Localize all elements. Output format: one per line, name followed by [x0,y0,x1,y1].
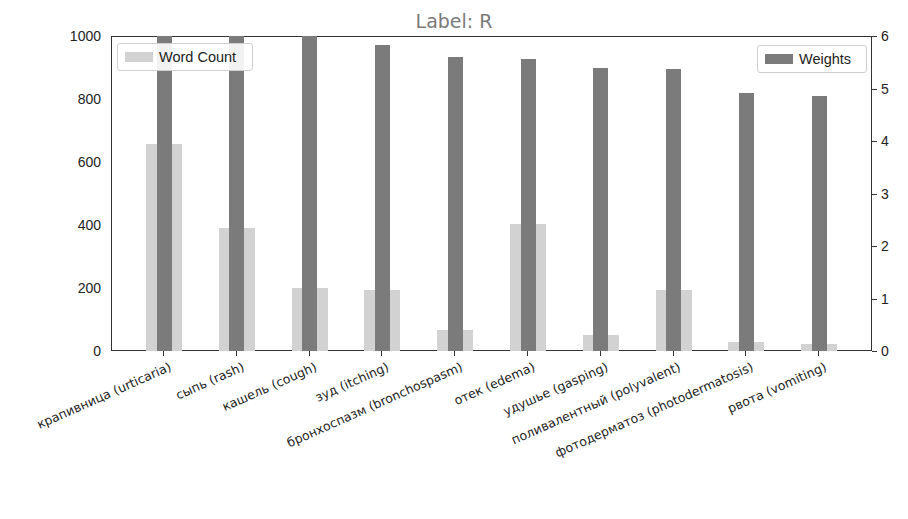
legend-label-word-count: Word Count [159,49,236,65]
x-tick-label: крапивница (urticaria) [34,359,173,432]
x-tick-mark [381,351,382,356]
y-tick-label-right: 2 [881,238,889,254]
y-tick-label-left: 400 [41,217,101,233]
legend-word-count: Word Count [117,43,253,71]
bar-weights [157,36,172,351]
x-tick-mark [454,351,455,356]
y-tick-mark-right [872,194,877,195]
legend-swatch-word-count [125,52,153,62]
bar-weights [739,93,754,351]
y-tick-label-left: 0 [41,343,101,359]
x-tick-mark [163,351,164,356]
y-tick-label-right: 1 [881,291,889,307]
bar-weights [229,36,244,351]
y-tick-label-left: 1000 [41,28,101,44]
x-tick-mark [600,351,601,356]
legend-label-weights: Weights [799,51,851,67]
bar-weights [593,68,608,351]
y-tick-label-left: 800 [41,91,101,107]
bar-weights [666,69,681,351]
bar-weights [521,59,536,351]
y-tick-mark-right [872,141,877,142]
y-tick-label-right: 3 [881,186,889,202]
x-tick-mark [236,351,237,356]
plot-area [111,36,872,351]
y-tick-mark-right [872,89,877,90]
bar-weights [812,96,827,351]
y-tick-mark-right [872,36,877,37]
y-tick-mark-right [872,246,877,247]
y-tick-label-left: 600 [41,154,101,170]
x-tick-mark [818,351,819,356]
y-tick-label-right: 5 [881,81,889,97]
bar-weights [302,36,317,351]
y-tick-mark-right [872,351,877,352]
y-tick-label-left: 200 [41,280,101,296]
legend-swatch-weights [765,54,793,64]
x-tick-mark [309,351,310,356]
chart-title: Label: R [0,10,908,32]
legend-weights: Weights [757,45,867,73]
x-tick-mark [745,351,746,356]
y-tick-mark-right [872,299,877,300]
y-tick-label-right: 6 [881,28,889,44]
chart: Label: R Word Count Weights крапивница (… [0,0,908,519]
y-tick-label-right: 0 [881,343,889,359]
x-tick-mark [673,351,674,356]
x-tick-mark [527,351,528,356]
bar-weights [375,45,390,351]
bar-weights [448,57,463,351]
y-tick-label-right: 4 [881,133,889,149]
